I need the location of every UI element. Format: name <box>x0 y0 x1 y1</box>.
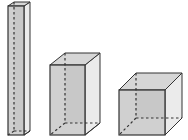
medium-rectangular-prism <box>50 53 100 135</box>
front-face <box>8 6 24 135</box>
front-face <box>50 65 85 135</box>
cube <box>119 73 182 135</box>
side-face <box>24 2 30 135</box>
tall-rectangular-prism <box>8 2 30 135</box>
front-face <box>119 90 165 135</box>
three-solids-diagram <box>0 0 188 140</box>
